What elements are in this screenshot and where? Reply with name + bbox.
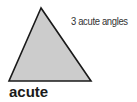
triangle-type-label: acute: [9, 83, 48, 100]
triangle-annotation: 3 acute angles: [71, 15, 128, 27]
